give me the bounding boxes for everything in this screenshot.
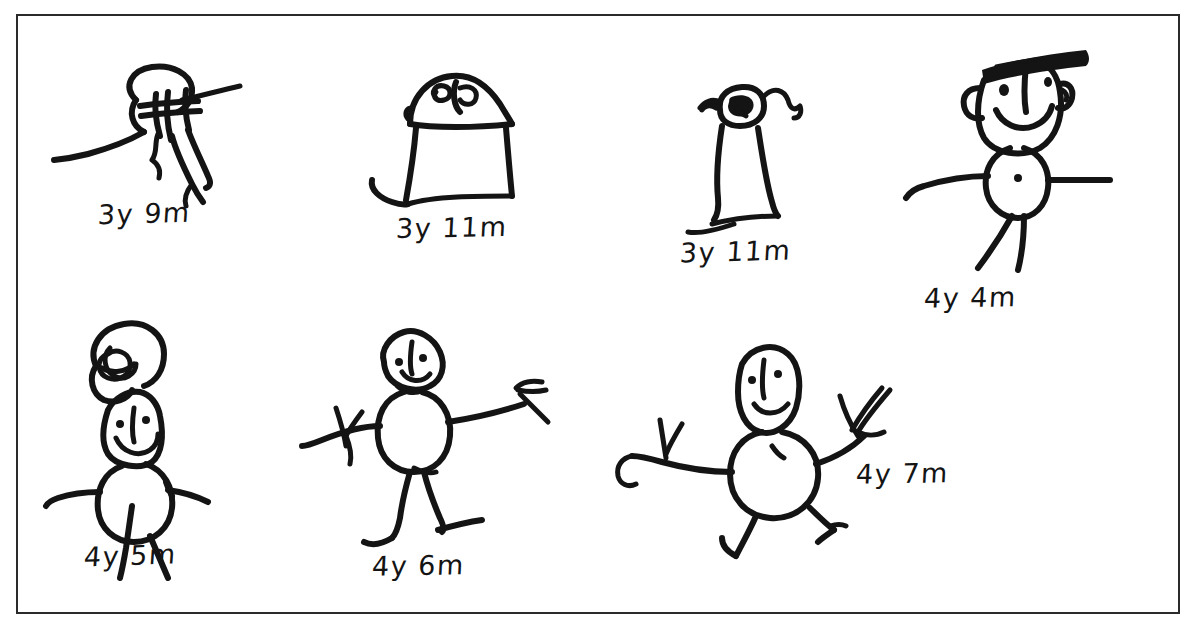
drawing-plate: 3y 9m [0, 0, 1196, 628]
figure-cell-7: 4y 7m [596, 332, 916, 562]
age-label-figure-5: 4y 5m [83, 540, 178, 570]
figure-cell-4: 4y 4m [900, 40, 1160, 330]
age-label-figure-3: 3y 11m [679, 237, 792, 267]
child-drawing-curly-hair-figure [40, 312, 280, 552]
figure-cell-1: 3y 9m [40, 60, 310, 260]
child-drawing-boy-with-hair [900, 40, 1160, 290]
age-label-figure-4: 4y 4m [923, 283, 1017, 312]
figure-cell-5: 4y 5m [40, 312, 280, 597]
child-drawing-running-figure [596, 332, 916, 552]
child-drawing-trapezoid-figure [360, 62, 610, 222]
child-drawing-scribble-figure [40, 60, 310, 220]
age-label-figure-6: 4y 6m [371, 551, 465, 580]
figure-cell-6: 4y 6m [288, 322, 578, 597]
age-label-figure-7: 4y 7m [855, 459, 949, 488]
figure-cell-3: 3y 11m [660, 60, 910, 285]
figure-cell-2: 3y 11m [360, 62, 610, 262]
age-label-figure-1: 3y 9m [97, 199, 192, 228]
child-drawing-narrow-figure [660, 60, 910, 245]
age-label-figure-2: 3y 11m [395, 213, 508, 242]
child-drawing-standing-figure [288, 322, 578, 552]
